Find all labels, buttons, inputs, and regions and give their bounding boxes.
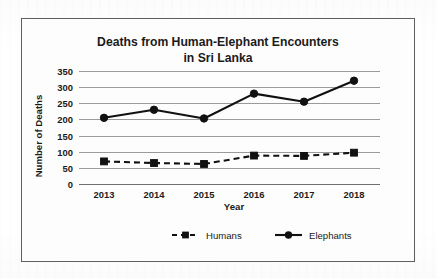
legend-marker-elephants <box>285 231 292 238</box>
series-line-elephants <box>104 81 354 119</box>
data-point-humans <box>201 161 208 168</box>
data-point-humans <box>151 160 158 167</box>
y-tick-label: 100 <box>57 147 73 158</box>
chart-legend: HumansElephants <box>172 230 352 241</box>
y-tick-label: 150 <box>57 131 73 142</box>
legend-label-elephants: Elephants <box>309 230 352 241</box>
x-tick-label: 2016 <box>244 189 265 200</box>
y-tick-label: 200 <box>57 114 73 125</box>
y-tick-label: 50 <box>63 163 73 174</box>
x-tick-label: 2017 <box>294 189 315 200</box>
x-tick-label: 2015 <box>194 189 215 200</box>
line-chart: Deaths from Human-Elephant Encounters in… <box>22 19 414 261</box>
legend-marker-humans <box>182 232 189 239</box>
data-point-elephants <box>150 106 157 113</box>
chart-title-line-1: Deaths from Human-Elephant Encounters <box>97 35 339 49</box>
y-axis-label: Number of Deaths <box>33 95 44 178</box>
series-line-humans <box>104 153 354 164</box>
data-point-elephants <box>100 114 107 121</box>
data-point-elephants <box>250 90 257 97</box>
y-tick-labels: 050100150200250300350 <box>57 66 73 190</box>
data-point-elephants <box>350 77 357 84</box>
x-tick-label: 2014 <box>144 189 166 200</box>
data-point-humans <box>101 158 108 165</box>
data-point-humans <box>351 149 358 156</box>
y-tick-label: 0 <box>68 179 73 190</box>
y-tick-label: 350 <box>57 66 73 77</box>
chart-title-line-2: in Sri Lanka <box>183 51 252 65</box>
data-series-layer <box>100 77 357 167</box>
data-point-elephants <box>200 115 207 122</box>
y-tick-label: 250 <box>57 98 73 109</box>
data-point-humans <box>251 152 258 159</box>
chart-figure-frame: Deaths from Human-Elephant Encounters in… <box>21 18 415 262</box>
x-tick-label: 2018 <box>344 189 365 200</box>
data-point-humans <box>301 153 308 160</box>
x-tick-labels: 201320142015201620172018 <box>94 189 365 200</box>
x-tick-label: 2013 <box>94 189 115 200</box>
x-axis-label: Year <box>224 201 245 212</box>
legend-label-humans: Humans <box>206 230 242 241</box>
data-point-elephants <box>300 98 307 105</box>
y-tick-label: 300 <box>57 82 73 93</box>
